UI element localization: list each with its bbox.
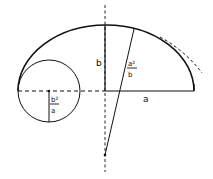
- ellipse-curvature-diagram: b a a² b b² a: [0, 0, 213, 179]
- label-a2-over-b-denominator: b: [128, 71, 133, 79]
- label-b: b: [96, 58, 102, 68]
- diagram-canvas: b a a² b b² a: [0, 0, 213, 179]
- label-a: a: [143, 94, 149, 104]
- label-a2-over-b-numerator: a²: [128, 60, 135, 68]
- top-curvature-radius-line: [105, 29, 134, 155]
- half-ellipse-curve: [18, 25, 194, 91]
- label-b2-over-a-numerator: b²: [51, 96, 58, 104]
- top-curvature-center-dot: [104, 154, 107, 157]
- label-b2-over-a-denominator: a: [51, 107, 55, 115]
